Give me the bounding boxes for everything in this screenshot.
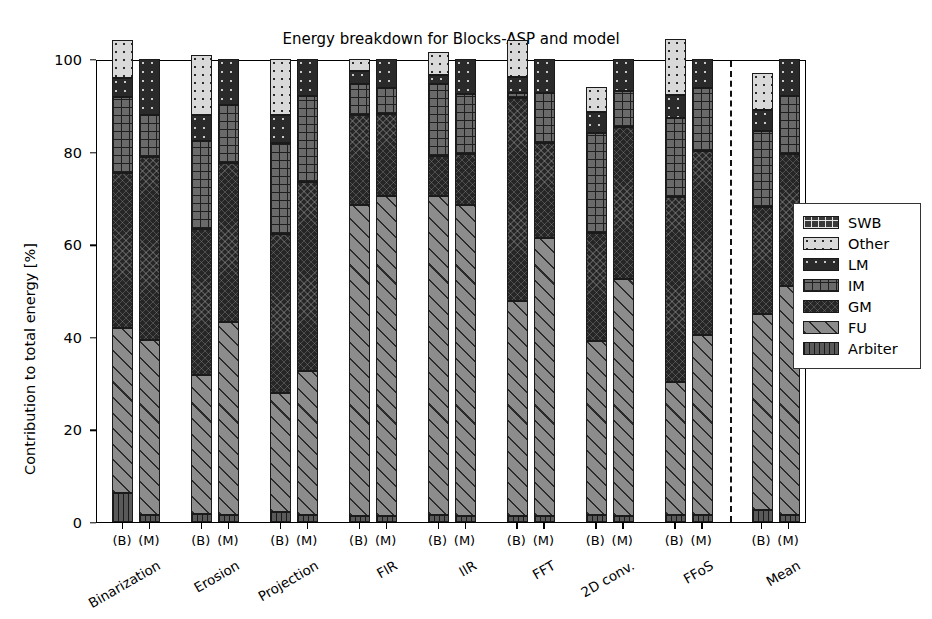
stacked-bar-projection-m[interactable] [297, 59, 318, 522]
bar-segment-gm[interactable] [376, 114, 397, 195]
bar-segment-arbiter[interactable] [586, 515, 607, 522]
bar-segment-gm[interactable] [507, 98, 528, 301]
stacked-bar-fft-b[interactable] [507, 59, 528, 522]
legend-item-other[interactable]: Other [803, 233, 911, 254]
bar-segment-im[interactable] [507, 93, 528, 98]
bar-segment-arbiter[interactable] [534, 516, 555, 522]
bar-segment-gm[interactable] [270, 234, 291, 394]
bar-segment-gm[interactable] [297, 182, 318, 371]
bar-segment-lm[interactable] [191, 115, 212, 140]
stacked-bar-ffos-m[interactable] [692, 59, 713, 522]
stacked-bar-binarization-b[interactable] [112, 59, 133, 522]
bar-segment-gm[interactable] [191, 229, 212, 375]
stacked-bar-mean-b[interactable] [752, 59, 773, 522]
bar-segment-arbiter[interactable] [752, 510, 773, 522]
bar-segment-fu[interactable] [218, 322, 239, 515]
stacked-bar-iir-m[interactable] [455, 59, 476, 522]
bar-segment-other[interactable] [507, 40, 528, 77]
bar-segment-im[interactable] [534, 93, 555, 143]
bar-segment-lm[interactable] [613, 59, 634, 91]
bar-segment-fu[interactable] [534, 238, 555, 516]
bar-segment-im[interactable] [665, 118, 686, 197]
bar-segment-fu[interactable] [455, 205, 476, 516]
bar-segment-lm[interactable] [218, 59, 239, 105]
bar-segment-arbiter[interactable] [507, 516, 528, 522]
stacked-bar-fir-b[interactable] [349, 59, 370, 522]
bar-segment-fu[interactable] [376, 196, 397, 516]
legend-item-arbiter[interactable]: Arbiter [803, 338, 911, 359]
stacked-bar-erosion-b[interactable] [191, 59, 212, 522]
bar-segment-fu[interactable] [191, 375, 212, 514]
bar-segment-gm[interactable] [752, 207, 773, 313]
stacked-bar-binarization-m[interactable] [139, 59, 160, 522]
bar-segment-arbiter[interactable] [428, 515, 449, 522]
legend-item-lm[interactable]: LM [803, 254, 911, 275]
bar-segment-lm[interactable] [779, 59, 800, 96]
bar-segment-im[interactable] [428, 84, 449, 156]
bar-segment-arbiter[interactable] [692, 515, 713, 522]
bar-segment-fu[interactable] [665, 382, 686, 515]
bar-segment-im[interactable] [613, 91, 634, 126]
bar-segment-lm[interactable] [752, 110, 773, 131]
bar-segment-arbiter[interactable] [665, 515, 686, 522]
bar-segment-im[interactable] [586, 133, 607, 233]
stacked-bar-iir-b[interactable] [428, 59, 449, 522]
bar-segment-lm[interactable] [507, 77, 528, 93]
bar-segment-gm[interactable] [218, 163, 239, 321]
bar-segment-lm[interactable] [534, 59, 555, 93]
bar-segment-arbiter[interactable] [455, 516, 476, 522]
bar-segment-lm[interactable] [270, 115, 291, 144]
bar-segment-fu[interactable] [270, 393, 291, 512]
bar-segment-other[interactable] [428, 52, 449, 75]
bar-segment-arbiter[interactable] [613, 516, 634, 522]
bar-segment-arbiter[interactable] [139, 515, 160, 522]
bar-segment-arbiter[interactable] [376, 516, 397, 522]
bar-segment-other[interactable] [270, 59, 291, 115]
bar-segment-fu[interactable] [112, 328, 133, 493]
stacked-bar-ffos-b[interactable] [665, 59, 686, 522]
bar-segment-fu[interactable] [139, 340, 160, 515]
legend-item-fu[interactable]: FU [803, 317, 911, 338]
bar-segment-arbiter[interactable] [270, 512, 291, 522]
bar-segment-other[interactable] [112, 40, 133, 77]
bar-segment-fu[interactable] [752, 314, 773, 511]
bar-segment-gm[interactable] [665, 197, 686, 382]
bar-segment-lm[interactable] [297, 59, 318, 96]
stacked-bar-2d-conv-b[interactable] [586, 59, 607, 522]
bar-segment-gm[interactable] [349, 115, 370, 204]
bar-segment-gm[interactable] [455, 154, 476, 205]
bar-segment-im[interactable] [779, 96, 800, 154]
bar-segment-arbiter[interactable] [297, 515, 318, 522]
bar-segment-lm[interactable] [112, 78, 133, 97]
bar-segment-lm[interactable] [139, 59, 160, 115]
bar-segment-gm[interactable] [112, 173, 133, 328]
bar-segment-im[interactable] [692, 88, 713, 151]
bar-segment-im[interactable] [191, 141, 212, 229]
bar-segment-fu[interactable] [613, 279, 634, 515]
bar-segment-fu[interactable] [349, 205, 370, 516]
bar-segment-arbiter[interactable] [112, 493, 133, 522]
bar-segment-gm[interactable] [139, 157, 160, 340]
bar-segment-im[interactable] [376, 88, 397, 114]
bar-segment-other[interactable] [665, 39, 686, 95]
bar-segment-lm[interactable] [692, 59, 713, 88]
bar-segment-im[interactable] [112, 97, 133, 173]
bar-segment-gm[interactable] [534, 143, 555, 238]
bar-segment-lm[interactable] [428, 75, 449, 84]
bar-segment-lm[interactable] [455, 59, 476, 94]
bar-segment-lm[interactable] [665, 95, 686, 118]
bar-segment-arbiter[interactable] [218, 515, 239, 522]
bar-segment-im[interactable] [297, 96, 318, 182]
stacked-bar-fft-m[interactable] [534, 59, 555, 522]
bar-segment-im[interactable] [349, 84, 370, 115]
bar-segment-lm[interactable] [586, 112, 607, 133]
legend-item-im[interactable]: IM [803, 275, 911, 296]
stacked-bar-2d-conv-m[interactable] [613, 59, 634, 522]
bar-segment-im[interactable] [270, 143, 291, 233]
bar-segment-im[interactable] [139, 115, 160, 157]
bar-segment-im[interactable] [752, 131, 773, 207]
bar-segment-other[interactable] [752, 73, 773, 110]
bar-segment-fu[interactable] [692, 335, 713, 514]
stacked-bar-erosion-m[interactable] [218, 59, 239, 522]
bar-segment-other[interactable] [349, 59, 370, 71]
